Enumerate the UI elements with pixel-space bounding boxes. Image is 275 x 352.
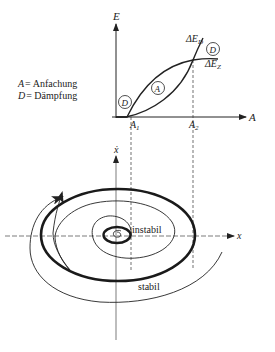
svg-text:A: A [154,84,161,94]
marker-a: A [152,82,165,95]
label-stabil: stabil [138,281,160,292]
label-delta-e-z: ΔEZ [204,58,221,71]
x-axis-label: x [236,230,242,241]
curve-delta-e-d [116,38,203,117]
marker-d-top: D [207,43,220,56]
diagram: E A A1 A2 ΔED ΔEZ D A D A= Anfachung D= … [0,0,275,352]
svg-text:D: D [209,45,217,55]
marker-d-bottom: D [119,96,132,109]
spiral-trajectory-inner [55,201,175,270]
unstable-limit-cycle [104,227,131,243]
xdot-axis-label: ẋ [113,144,119,155]
tick-a1: A1 [129,119,140,132]
label-instabil: instabil [132,224,162,235]
e-axis-label: E [112,10,120,22]
legend: A= Anfachung D= Dämpfung [17,78,77,101]
stable-limit-cycle [41,189,195,281]
legend-daempfung: D= Dämpfung [17,90,77,101]
label-delta-e-d: ΔED [185,33,203,46]
tick-a2: A2 [188,119,199,132]
curve-delta-e-z [116,59,218,117]
legend-anfachung: A= Anfachung [17,78,77,89]
phase-portrait: x ẋ instabil stabil [5,144,242,340]
a-axis-label: A [248,111,256,123]
svg-text:D: D [121,98,129,108]
